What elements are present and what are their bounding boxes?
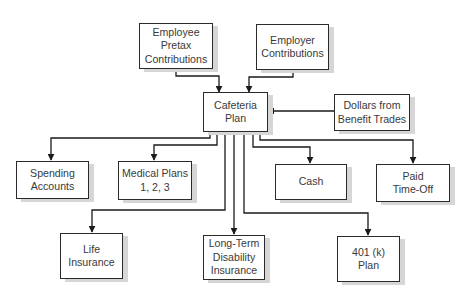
node-label: 401 (k) Plan [352,246,385,273]
node-label: Life Insurance [68,243,115,270]
node-label: Employee Pretax Contributions [145,26,207,67]
node-label: Medical Plans 1, 2, 3 [122,167,188,194]
node-medical-plans: Medical Plans 1, 2, 3 [118,161,192,200]
node-401k-plan: 401 (k) Plan [337,236,400,282]
edge-employer-to-cafeteria [249,70,293,92]
node-dollars-from-benefit-trades: Dollars from Benefit Trades [334,94,410,131]
node-employer-contributions: Employer Contributions [256,24,329,70]
cafeteria-plan-diagram: Employee Pretax Contributions Employer C… [0,0,465,297]
node-label: Spending Accounts [30,167,75,194]
edge-cafeteria-to-spending [51,132,210,160]
node-life-insurance: Life Insurance [60,233,123,279]
node-cafeteria-plan: Cafeteria Plan [203,92,268,132]
node-label: Long-Term Disability Insurance [209,237,260,278]
node-employee-pretax-contributions: Employee Pretax Contributions [139,23,213,69]
node-long-term-disability-insurance: Long-Term Disability Insurance [203,235,265,280]
node-cash: Cash [275,164,347,200]
node-label: Cash [299,175,324,189]
edge-employee-to-cafeteria [176,69,219,92]
node-paid-time-off: Paid Time-Off [376,164,450,202]
node-label: Dollars from Benefit Trades [338,99,406,126]
edge-cafeteria-to-cash [253,132,310,163]
node-label: Paid Time-Off [393,170,434,197]
edge-cafeteria-to-medical [154,132,217,160]
node-spending-accounts: Spending Accounts [16,161,89,199]
node-label: Cafeteria Plan [214,99,257,126]
node-label: Employer Contributions [261,34,323,61]
